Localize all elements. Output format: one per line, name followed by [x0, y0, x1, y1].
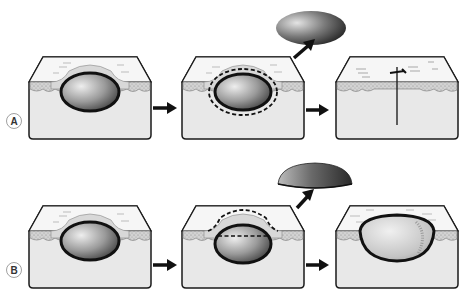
arrow-b1-b2 [153, 259, 177, 271]
panel-a1-cyst-in-skin [29, 57, 151, 139]
svg-text:A: A [10, 116, 17, 127]
panel-b3-open-cavity [336, 206, 458, 288]
removed-cyst-ellipsoid [276, 11, 346, 58]
cyst [61, 73, 119, 111]
panel-b1-cyst-in-skin [29, 206, 151, 288]
panel-a3-closed-wound [336, 57, 458, 139]
svg-text:B: B [10, 265, 17, 276]
row-label-a: A [7, 114, 22, 129]
arrow-b2-b3 [306, 259, 329, 271]
panel-a2-excision-margin [182, 57, 304, 139]
cyst [215, 225, 271, 263]
arrow-a1-a2 [153, 102, 177, 114]
panel-b2-deroofing-line [182, 206, 304, 288]
removed-cyst-roof-dome [278, 163, 352, 208]
arrow-a2-a3 [306, 104, 329, 116]
diagram-canvas: A B [0, 0, 461, 295]
row-label-b: B [7, 263, 22, 278]
cyst [215, 74, 271, 110]
cyst [61, 222, 119, 260]
